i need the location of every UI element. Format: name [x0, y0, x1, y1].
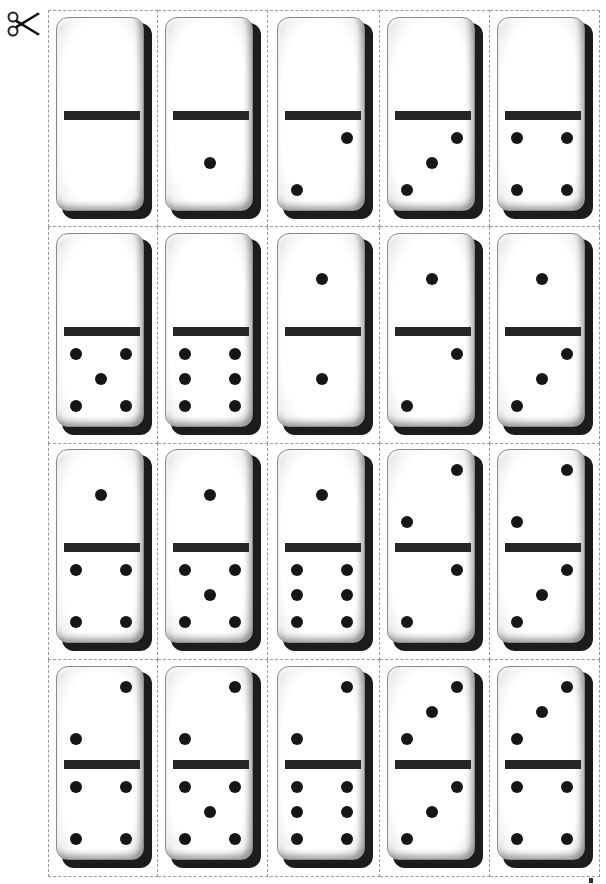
divider-bar — [505, 543, 581, 552]
divider-bar — [64, 543, 140, 552]
pip — [291, 564, 303, 576]
pip — [511, 733, 523, 745]
pip — [341, 806, 353, 818]
domino-tile — [387, 17, 475, 211]
divider-bar — [505, 760, 581, 769]
domino-cell — [48, 10, 158, 227]
domino-0-4 — [497, 17, 589, 215]
divider-bar — [64, 111, 140, 120]
pip — [341, 589, 353, 601]
pip — [179, 733, 191, 745]
domino-cell — [158, 660, 268, 877]
pip — [561, 564, 573, 576]
pip — [426, 806, 438, 818]
domino-tile — [387, 233, 475, 427]
pip — [204, 489, 216, 501]
pip — [426, 706, 438, 718]
pip — [120, 564, 132, 576]
domino-tile — [277, 666, 365, 860]
domino-tile — [165, 449, 253, 643]
pip — [561, 464, 573, 476]
pip — [120, 781, 132, 793]
divider-bar — [173, 327, 249, 336]
pip — [511, 616, 523, 628]
pip — [291, 589, 303, 601]
divider-bar — [505, 327, 581, 336]
domino-2-3 — [497, 449, 589, 647]
pip — [426, 273, 438, 285]
domino-tile — [387, 666, 475, 860]
domino-0-5 — [56, 233, 148, 431]
pip — [229, 348, 241, 360]
divider-bar — [395, 543, 471, 552]
divider-bar — [173, 543, 249, 552]
pip — [120, 681, 132, 693]
pip — [536, 273, 548, 285]
domino-cell — [380, 443, 490, 660]
pip — [401, 516, 413, 528]
domino-tile — [56, 449, 144, 643]
domino-tile — [497, 449, 585, 643]
domino-3-4 — [497, 666, 589, 864]
pip — [204, 589, 216, 601]
domino-cell — [490, 443, 600, 660]
domino-tile — [165, 666, 253, 860]
divider-bar — [285, 327, 361, 336]
pip — [401, 616, 413, 628]
pip — [179, 564, 191, 576]
pip — [561, 833, 573, 845]
pip — [95, 489, 107, 501]
domino-cell — [158, 10, 268, 227]
pip — [229, 616, 241, 628]
pip — [70, 733, 82, 745]
pip — [291, 184, 303, 196]
pip — [561, 348, 573, 360]
domino-cell — [380, 227, 490, 444]
pip — [511, 132, 523, 144]
pip — [229, 400, 241, 412]
domino-tile — [277, 233, 365, 427]
pip — [70, 348, 82, 360]
pip — [341, 781, 353, 793]
domino-cell — [270, 227, 380, 444]
pip — [451, 564, 463, 576]
divider-bar — [395, 327, 471, 336]
pip — [561, 184, 573, 196]
pip — [70, 400, 82, 412]
pip — [341, 681, 353, 693]
pip — [401, 400, 413, 412]
domino-tile — [56, 233, 144, 427]
pip — [179, 833, 191, 845]
pip — [291, 781, 303, 793]
pip — [561, 781, 573, 793]
divider-bar — [395, 760, 471, 769]
pip — [291, 833, 303, 845]
divider-bar — [173, 760, 249, 769]
pip — [451, 681, 463, 693]
domino-tile — [56, 17, 144, 211]
domino-sheet — [48, 10, 600, 877]
pip — [511, 833, 523, 845]
pip — [451, 464, 463, 476]
pip — [120, 348, 132, 360]
domino-cell — [490, 660, 600, 877]
pip — [229, 373, 241, 385]
pip — [511, 781, 523, 793]
divider-bar — [64, 760, 140, 769]
divider-bar — [173, 111, 249, 120]
domino-1-3 — [497, 233, 589, 431]
page-number-mark — [589, 878, 593, 883]
domino-cell — [158, 443, 268, 660]
pip — [511, 516, 523, 528]
domino-tile — [497, 233, 585, 427]
pip — [451, 132, 463, 144]
domino-1-1 — [277, 233, 369, 431]
domino-1-4 — [56, 449, 148, 647]
pip — [70, 564, 82, 576]
pip — [341, 833, 353, 845]
domino-1-5 — [165, 449, 257, 647]
divider-bar — [395, 111, 471, 120]
pip — [536, 589, 548, 601]
domino-tile — [497, 666, 585, 860]
divider-bar — [64, 327, 140, 336]
